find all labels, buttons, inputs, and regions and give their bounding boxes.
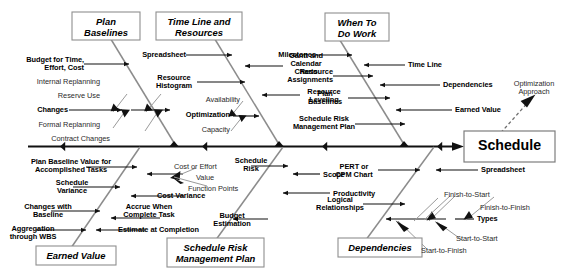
cause-value: Value [196,174,230,182]
category-label-time-line-resources: Time Line and Resources [156,16,242,38]
cause-schedule-risk: Schedule Risk [228,157,274,173]
cause-finish-to-finish: Finish-to-Finish [480,204,550,212]
cause-contract-changes: Contract Changes [18,135,110,143]
cause-aggregation-wbs: Aggregation through WBS [4,225,62,241]
cause-budget-for-time: Budget for Time, Effort, Cost [8,56,84,72]
cause-plan-baseline-value: Plan Baseline Value for Accomplished Tas… [28,158,114,174]
cause-formal-replanning: Formal Replanning [8,121,100,129]
cause-budget-estimation: Budget Estimation [205,212,259,228]
category-label-earned-value: Earned Value [36,250,116,261]
category-label-schedule-risk: Schedule Risk Management Plan [167,242,264,264]
cause-schedule-risk-mgmt-plan: Schedule Risk Management Plan [292,115,356,131]
category-label-plan-baselines: Plan Baselines [72,16,140,38]
category-label-dependencies: Dependencies [338,242,422,253]
cause-capacity: Capacity [186,126,230,134]
cause-spreadsheet-bottom: Spreadsheet [481,166,541,174]
cause-accrue-when-complete: Accrue When Complete Task [118,203,180,219]
cause-changes: Changes [26,106,68,114]
effect-label-schedule: Schedule [464,138,555,154]
cause-types: Types [477,215,517,223]
fishbone-diagram: Plan Baselines Time Line and Resources W… [0,0,576,280]
cause-changes-with-baseline: Changes with Baseline [20,203,76,219]
cause-spreadsheet-top: Spreadsheet [126,51,186,59]
cause-pert-cpm-chart: PERT or CPM Chart [330,163,378,179]
cause-resource-assignments: Resource Assignments [276,68,333,84]
main-spine [28,142,464,151]
cause-reserve-use: Reserve Use [24,92,100,100]
cause-time-line: Time Line [408,61,462,69]
category-label-when-to-do-work: When To Do Work [325,17,389,39]
optimization-approach-label: Optimization Approach [497,80,571,96]
cause-start-to-start: Start-to-Start [456,235,518,243]
cause-estimate-at-completion: Estimate at Completion [118,226,210,234]
cause-dependencies: Dependencies [443,81,505,89]
cause-internal-replanning: Internal Replanning [14,78,100,86]
cause-plan-baselines: Plan Baselines [302,90,348,106]
cause-resource-histogram: Resource Histogram [150,74,198,90]
cause-schedule-variance: Schedule Variance [48,179,96,195]
cause-start-to-finish: Start-to-Finish [421,247,485,255]
cause-logical-relationships: Logical Relationships [313,196,367,212]
cause-cost-or-effort: Cost or Effort [174,163,236,171]
cause-finish-to-start: Finish-to-Start [444,191,508,199]
cause-optimization: Optimization [176,111,230,119]
cause-availability: Availability [186,96,240,104]
cause-milestones: Milestones [268,51,316,59]
cause-earned-value: Earned Value [455,106,517,114]
cause-cost-variance: Cost Variance [157,192,225,200]
